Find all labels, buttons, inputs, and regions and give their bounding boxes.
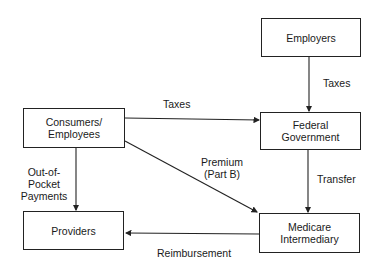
node-consumers-label-2: Employees bbox=[48, 128, 100, 140]
node-employers-label: Employers bbox=[286, 32, 336, 44]
edge-label-oop-1: Out-of- bbox=[19, 166, 69, 178]
node-employers: Employers bbox=[261, 18, 361, 57]
edge-label-premium-1: Premium bbox=[200, 156, 244, 168]
node-medicare-label-1: Medicare bbox=[288, 221, 331, 233]
node-consumers-label-1: Consumers/ bbox=[46, 116, 103, 128]
node-federal-label-1: Federal bbox=[293, 119, 329, 131]
node-federal-label-2: Government bbox=[282, 131, 340, 143]
edge-label-oop-2: Pocket bbox=[19, 178, 69, 190]
edge-label-premium: Premium (Part B) bbox=[200, 156, 244, 180]
node-consumers-employees: Consumers/ Employees bbox=[23, 108, 125, 148]
node-providers-label: Providers bbox=[51, 225, 95, 237]
edge-label-premium-2: (Part B) bbox=[200, 168, 244, 180]
arrow-medicare-providers bbox=[126, 233, 259, 234]
node-providers: Providers bbox=[23, 211, 124, 250]
edge-label-oop-3: Payments bbox=[19, 190, 69, 202]
node-federal-government: Federal Government bbox=[260, 112, 361, 150]
edge-label-employers-taxes: Taxes bbox=[323, 77, 350, 89]
node-medicare-label-2: Intermediary bbox=[280, 233, 338, 245]
edge-label-transfer: Transfer bbox=[317, 173, 356, 185]
edge-label-out-of-pocket: Out-of- Pocket Payments bbox=[19, 166, 69, 202]
edge-label-reimbursement: Reimbursement bbox=[157, 247, 231, 259]
arrow-consumers-federal bbox=[125, 118, 259, 120]
edge-label-consumers-taxes: Taxes bbox=[163, 98, 190, 110]
node-medicare-intermediary: Medicare Intermediary bbox=[259, 213, 360, 253]
